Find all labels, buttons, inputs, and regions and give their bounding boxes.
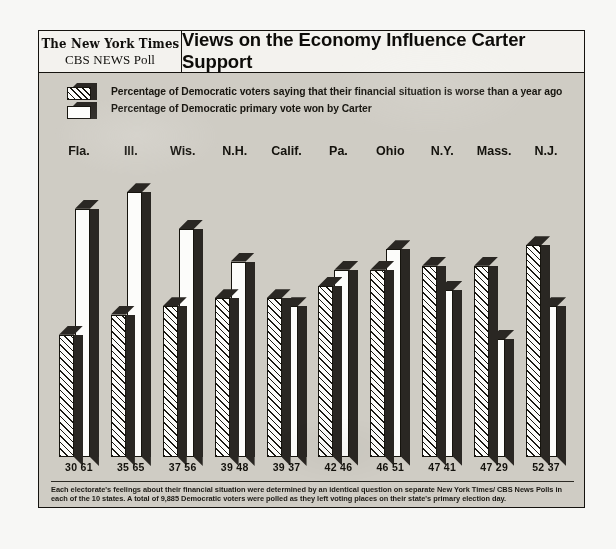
bar-side-face xyxy=(505,339,514,457)
cbs-news-poll-text: CBS NEWS Poll xyxy=(65,52,155,68)
bar-side-face xyxy=(489,266,498,457)
bar-group xyxy=(526,162,566,457)
footnote-line-1: Each electorate's feelings about their f… xyxy=(51,485,574,494)
bar-financial-worse xyxy=(267,298,282,457)
newspaper-page: The New York Times CBS NEWS Poll Views o… xyxy=(0,0,616,549)
bar-side-face xyxy=(541,245,550,457)
bar-front-face xyxy=(267,298,282,457)
bar-group xyxy=(422,162,462,457)
bar-side-face xyxy=(333,286,342,457)
footnote-line-2: each of the 10 states. A total of 9,885 … xyxy=(51,494,574,503)
bar-group xyxy=(111,162,151,457)
bar-front-face xyxy=(59,335,74,457)
bar-financial-worse xyxy=(526,245,541,457)
bar-financial-worse xyxy=(111,315,126,458)
poll-masthead: The New York Times CBS NEWS Poll xyxy=(39,31,182,72)
swatch-front-face xyxy=(67,87,91,100)
legend-swatch-white xyxy=(67,102,97,119)
legend-swatch-hatched xyxy=(67,83,97,100)
bar-front-face xyxy=(370,270,385,457)
bar-financial-worse xyxy=(163,306,178,457)
bar-front-face xyxy=(526,245,541,457)
nyt-logo-text: The New York Times xyxy=(41,36,179,51)
value-labels-row: 30 6135 6537 5639 4839 3742 4646 5147 41… xyxy=(39,461,584,477)
bar-side-face xyxy=(557,306,566,457)
chart-clipping-frame: The New York Times CBS NEWS Poll Views o… xyxy=(38,30,585,508)
bar-top-face xyxy=(127,183,151,192)
bar-side-face xyxy=(349,270,358,457)
chart-header: The New York Times CBS NEWS Poll Views o… xyxy=(39,31,584,73)
plot-area xyxy=(39,162,584,457)
bar-side-face xyxy=(401,249,410,457)
bar-top-face xyxy=(334,261,358,270)
footnote: Each electorate's feelings about their f… xyxy=(51,481,574,504)
bar-top-face xyxy=(75,200,99,209)
swatch-side-face xyxy=(91,102,97,119)
bar-side-face xyxy=(298,306,307,457)
bar-side-face xyxy=(246,262,255,457)
bar-side-face xyxy=(282,298,291,457)
legend-label-financial-situation: Percentage of Democratic voters saying t… xyxy=(111,86,562,97)
bar-side-face xyxy=(230,298,239,457)
bar-financial-worse xyxy=(474,266,489,457)
bar-financial-worse xyxy=(370,270,385,457)
bar-top-face xyxy=(422,257,446,266)
bar-top-face xyxy=(386,240,410,249)
bar-front-face xyxy=(111,315,126,458)
legend: Percentage of Democratic voters saying t… xyxy=(53,83,574,123)
bar-side-face xyxy=(142,192,151,457)
bar-top-face xyxy=(267,289,291,298)
page-title: Views on the Economy Influence Carter Su… xyxy=(182,31,584,72)
bar-top-face xyxy=(526,236,550,245)
bar-front-face xyxy=(215,298,230,457)
bar-side-face xyxy=(90,209,99,457)
bar-front-face xyxy=(474,266,489,457)
legend-label-carter-vote: Percentage of Democratic primary vote wo… xyxy=(111,103,372,114)
bar-group xyxy=(474,162,514,457)
bar-side-face xyxy=(437,266,446,457)
bar-group xyxy=(215,162,255,457)
bar-side-face xyxy=(385,270,394,457)
bar-side-face xyxy=(74,335,83,457)
bar-group xyxy=(267,162,307,457)
value-label-nj: 52 37 xyxy=(516,461,576,473)
bar-financial-worse xyxy=(59,335,74,457)
bar-top-face xyxy=(231,253,255,262)
bar-group xyxy=(318,162,358,457)
bar-group xyxy=(59,162,99,457)
swatch-side-face xyxy=(91,83,97,100)
bar-side-face xyxy=(453,290,462,457)
bar-financial-worse xyxy=(422,266,437,457)
bar-side-face xyxy=(178,306,187,457)
bar-front-face xyxy=(422,266,437,457)
bar-top-face xyxy=(179,220,203,229)
swatch-front-face xyxy=(67,106,91,119)
bar-side-face xyxy=(194,229,203,457)
category-axis-labels: Fla.Ill.Wis.N.H.Calif.Pa.OhioN.Y.Mass.N.… xyxy=(39,144,584,162)
bar-financial-worse xyxy=(318,286,333,457)
bar-side-face xyxy=(126,315,135,458)
bar-front-face xyxy=(318,286,333,457)
category-label-nj: N.J. xyxy=(516,144,576,158)
bar-financial-worse xyxy=(215,298,230,457)
bar-top-face xyxy=(474,257,498,266)
bar-group xyxy=(163,162,203,457)
bar-front-face xyxy=(163,306,178,457)
bar-group xyxy=(370,162,410,457)
